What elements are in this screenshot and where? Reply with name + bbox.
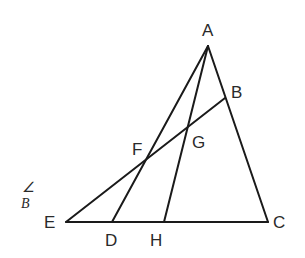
point-label-a: A bbox=[202, 21, 214, 40]
geometry-diagram: ABCDEFGH ∠ B bbox=[0, 0, 305, 258]
point-label-b: B bbox=[231, 83, 242, 102]
point-label-e: E bbox=[44, 213, 55, 232]
point-label-c: C bbox=[273, 213, 285, 232]
margin-note: ∠ B bbox=[21, 180, 35, 211]
segment-ac bbox=[208, 46, 268, 222]
angle-symbol-icon: ∠ bbox=[22, 180, 35, 195]
point-label-g: G bbox=[192, 133, 205, 152]
diagram-canvas: ABCDEFGH ∠ B bbox=[0, 0, 305, 258]
segments-group bbox=[66, 46, 268, 222]
segment-eb bbox=[66, 98, 225, 222]
point-label-d: D bbox=[105, 231, 117, 250]
point-label-f: F bbox=[132, 140, 142, 159]
point-label-h: H bbox=[150, 231, 162, 250]
margin-note-letter: B bbox=[21, 196, 30, 211]
